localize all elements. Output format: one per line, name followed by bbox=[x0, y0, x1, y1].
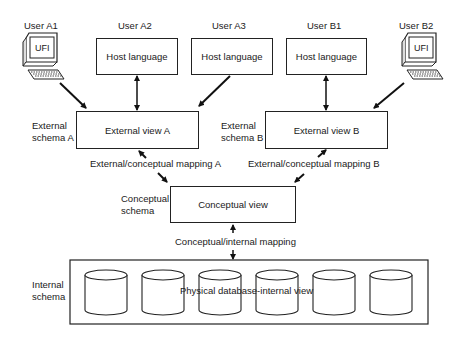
terminal-a1-screen-text: UFI bbox=[35, 42, 50, 54]
database-icon bbox=[85, 270, 127, 315]
external-view-a-label: External view A bbox=[105, 125, 170, 136]
arrow-a3-to-view-a bbox=[199, 76, 230, 106]
user-b1-label: User B1 bbox=[307, 20, 341, 32]
arrow-mapping-a-down bbox=[158, 173, 167, 182]
conceptual-internal-mapping-label: Conceptual/internal mapping bbox=[175, 236, 296, 248]
external-view-a-box: External view A bbox=[76, 111, 199, 149]
host-language-box-a3: Host language bbox=[191, 38, 273, 75]
user-a1-label: User A1 bbox=[24, 20, 58, 32]
internal-schema-label: Internal schema bbox=[32, 279, 65, 303]
host-language-label: Host language bbox=[201, 51, 262, 62]
conceptual-view-box: Conceptual view bbox=[170, 186, 296, 223]
host-language-box-a2: Host language bbox=[96, 38, 178, 75]
user-b2-label: User B2 bbox=[399, 20, 433, 32]
arrow-mapping-b-up bbox=[318, 150, 326, 157]
external-schema-a-label: External schema A bbox=[32, 120, 74, 144]
arrow-mapping-a-up bbox=[139, 151, 146, 158]
external-view-b-label: External view B bbox=[294, 125, 359, 136]
mapping-a-label: External/conceptual mapping A bbox=[90, 158, 221, 170]
user-a2-label: User A2 bbox=[118, 20, 152, 32]
terminal-icon-a1 bbox=[23, 33, 64, 79]
host-language-box-b1: Host language bbox=[286, 38, 367, 75]
external-schema-b-label: External schema B bbox=[221, 120, 263, 144]
arrow-mapping-b-down bbox=[295, 174, 304, 182]
host-language-label: Host language bbox=[106, 51, 167, 62]
database-icon bbox=[370, 270, 412, 315]
arrow-a1-to-view-a bbox=[60, 83, 86, 108]
physical-database-internal-view-label: Physical database-internal view bbox=[180, 285, 313, 297]
external-view-b-box: External view B bbox=[265, 111, 388, 149]
database-icon bbox=[313, 270, 355, 315]
mapping-b-label: External/conceptual mapping B bbox=[248, 158, 380, 170]
terminal-icon-b2 bbox=[402, 33, 443, 79]
terminal-b2-screen-text: UFI bbox=[414, 42, 429, 54]
conceptual-view-label: Conceptual view bbox=[198, 199, 268, 210]
conceptual-schema-label: Conceptual schema bbox=[121, 193, 169, 217]
arrow-b2-to-view-b bbox=[374, 83, 404, 108]
user-a3-label: User A3 bbox=[212, 20, 246, 32]
database-icon bbox=[142, 270, 184, 315]
host-language-label: Host language bbox=[296, 51, 357, 62]
